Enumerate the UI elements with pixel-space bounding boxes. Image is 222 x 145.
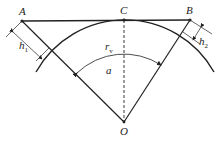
label-o: O	[120, 126, 128, 137]
label-c: C	[120, 5, 127, 16]
label-h1: h1	[19, 40, 28, 54]
main-arc	[36, 20, 214, 72]
point-o-dot	[123, 121, 126, 124]
label-rv: rv	[105, 41, 113, 55]
h1-extension-arc	[36, 48, 49, 61]
label-h2: h2	[199, 36, 208, 50]
label-b: B	[186, 5, 193, 16]
h2-extension-arc	[183, 32, 200, 44]
point-c-dot	[123, 19, 126, 22]
angle-arc	[77, 54, 161, 73]
h1-extension-a	[6, 21, 22, 37]
label-angle-a: a	[106, 65, 112, 76]
label-a: A	[19, 6, 26, 17]
